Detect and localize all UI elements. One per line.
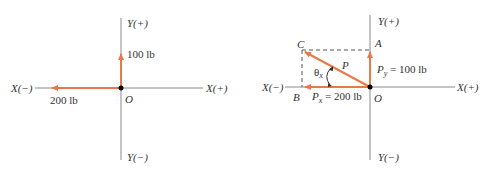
origin-label: O <box>374 92 382 104</box>
x-pos-label: X(+) <box>205 82 228 95</box>
point-b-label: B <box>293 91 300 103</box>
point-a-label: A <box>374 37 382 49</box>
y-pos-label: Y(+) <box>378 15 399 28</box>
resultant-label: P <box>341 59 349 71</box>
origin-point <box>119 86 124 91</box>
px-label: Px = 200 lb <box>311 90 362 105</box>
x-pos-label: X(+) <box>456 81 479 94</box>
y-neg-label: Y(−) <box>378 151 399 164</box>
origin-point <box>368 85 373 90</box>
left-diagram: Y(+) Y(−) X(+) X(−) O 100 lb 200 lb <box>10 17 228 164</box>
y-pos-label: Y(+) <box>127 17 148 30</box>
angle-label: θx <box>314 66 323 80</box>
right-diagram: Y(+) Y(−) X(+) X(−) O A B C P θx Py = 10… <box>261 15 479 164</box>
vertical-force-label: 100 lb <box>127 48 155 60</box>
x-neg-label: X(−) <box>261 81 284 94</box>
point-c-label: C <box>297 38 305 50</box>
x-neg-label: X(−) <box>10 82 33 95</box>
origin-label: O <box>125 93 133 105</box>
horizontal-force-label: 200 lb <box>50 94 78 106</box>
angle-arc <box>327 68 331 85</box>
py-label: Py = 100 lb <box>376 63 427 78</box>
y-neg-label: Y(−) <box>127 151 148 164</box>
force-diagrams: Y(+) Y(−) X(+) X(−) O 100 lb 200 lb Y(+)… <box>0 0 495 179</box>
